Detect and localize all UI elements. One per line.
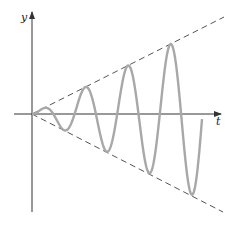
- t-axis-label: t: [216, 115, 221, 128]
- oscillation-curve: [32, 44, 202, 195]
- y-axis-label: y: [20, 11, 28, 24]
- growing-oscillation-chart: y t: [0, 0, 234, 226]
